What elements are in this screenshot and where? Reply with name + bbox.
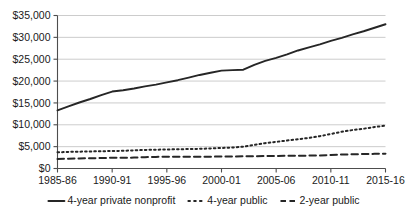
y-axis-tick-label: $10,000 xyxy=(13,118,51,130)
x-axis-tick-label: 2010-11 xyxy=(312,174,350,186)
legend-label: 4-year public xyxy=(207,194,267,206)
y-axis-tick-label: $20,000 xyxy=(13,75,51,87)
line-chart: $0$5,000$10,000$15,000$20,000$25,000$30,… xyxy=(0,0,408,217)
chart-legend: 4-year private nonprofit4-year public2-y… xyxy=(48,194,359,206)
data-series xyxy=(58,24,386,159)
y-axis-tick-label: $0 xyxy=(39,162,51,174)
y-axis-tick-label: $15,000 xyxy=(13,97,51,109)
x-axis-tick-labels: 1985-861990-911995-962000-012005-062010-… xyxy=(38,174,405,186)
series-line-2 xyxy=(58,126,386,153)
y-axis-tick-label: $25,000 xyxy=(13,53,51,65)
y-axis-tick-label: $5,000 xyxy=(18,140,50,152)
series-line-3 xyxy=(58,154,386,159)
x-axis-tick-label: 2000-01 xyxy=(202,174,241,186)
y-axis-tick-marks xyxy=(54,16,58,169)
legend-label: 2-year public xyxy=(299,194,359,206)
x-axis-tick-label: 1995-96 xyxy=(148,174,187,186)
y-axis-tick-labels: $0$5,000$10,000$15,000$20,000$25,000$30,… xyxy=(13,9,51,174)
y-axis-tick-label: $30,000 xyxy=(13,31,51,43)
legend-label: 4-year private nonprofit xyxy=(67,194,175,206)
y-axis-tick-label: $35,000 xyxy=(13,9,51,21)
x-axis-tick-marks xyxy=(58,169,386,173)
x-axis-tick-label: 1985-86 xyxy=(38,174,77,186)
x-axis-tick-label: 1990-91 xyxy=(93,174,132,186)
x-axis-tick-label: 2005-06 xyxy=(257,174,296,186)
chart-container: $0$5,000$10,000$15,000$20,000$25,000$30,… xyxy=(0,0,408,217)
x-axis-tick-label: 2015-16 xyxy=(366,174,405,186)
